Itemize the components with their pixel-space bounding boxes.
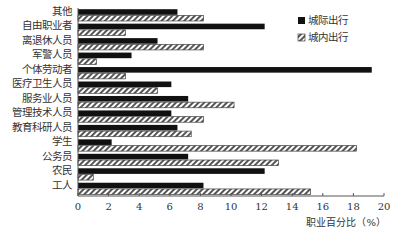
x-tick-label: 12 bbox=[255, 201, 268, 212]
intercity-bar bbox=[78, 82, 171, 88]
intracity-bar bbox=[78, 88, 158, 94]
intracity-bar bbox=[78, 102, 234, 108]
intercity-bar bbox=[78, 96, 188, 102]
intracity-bar bbox=[78, 44, 203, 50]
legend: 城际出行城内出行 bbox=[298, 14, 349, 43]
y-axis: 其他自由职业者离退休人员军警人员个体劳动者医疗卫生人员服务业人员管理技术人员教育… bbox=[12, 5, 78, 196]
x-tick-label: 16 bbox=[316, 201, 329, 212]
category-label: 服务业人员 bbox=[22, 92, 72, 104]
intercity-bar bbox=[78, 183, 203, 189]
intracity-bar bbox=[78, 131, 191, 137]
x-tick-label: 8 bbox=[197, 201, 203, 212]
intercity-bar bbox=[78, 125, 177, 131]
intercity-bar bbox=[78, 168, 265, 174]
x-axis-title: 职业百分比（%） bbox=[306, 217, 386, 228]
legend-label-intracity: 城内出行 bbox=[308, 31, 349, 43]
category-label: 学生 bbox=[52, 135, 72, 147]
intercity-bar bbox=[78, 38, 158, 44]
x-tick-label: 2 bbox=[105, 201, 111, 212]
category-label: 医疗卫生人员 bbox=[12, 77, 72, 89]
intercity-bar bbox=[78, 110, 171, 116]
category-label: 工人 bbox=[52, 179, 73, 191]
x-axis: 02468101214161820 bbox=[75, 193, 391, 212]
category-label: 个体劳动者 bbox=[22, 63, 72, 75]
category-label: 公务员 bbox=[42, 150, 72, 162]
intercity-bar bbox=[78, 139, 112, 145]
x-tick-label: 20 bbox=[378, 201, 391, 212]
intracity-bar bbox=[78, 59, 96, 65]
x-tick-label: 4 bbox=[136, 201, 142, 212]
intracity-bar bbox=[78, 73, 125, 79]
x-tick-label: 18 bbox=[347, 201, 360, 212]
intracity-bar bbox=[78, 117, 203, 123]
intracity-bar bbox=[78, 160, 278, 166]
category-label: 其他 bbox=[52, 5, 73, 17]
intracity-bar bbox=[78, 189, 311, 195]
x-tick-label: 10 bbox=[225, 201, 238, 212]
category-label: 自由职业者 bbox=[22, 19, 72, 31]
intercity-bar bbox=[78, 53, 132, 59]
legend-swatch-intracity bbox=[298, 34, 305, 41]
intercity-bar bbox=[78, 67, 372, 73]
intercity-bar bbox=[78, 24, 265, 30]
bar-chart: 其他自由职业者离退休人员军警人员个体劳动者医疗卫生人员服务业人员管理技术人员教育… bbox=[0, 0, 394, 236]
x-tick-label: 0 bbox=[75, 201, 81, 212]
intracity-bar bbox=[78, 15, 203, 21]
legend-swatch-intercity bbox=[298, 17, 305, 24]
legend-label-intercity: 城际出行 bbox=[308, 14, 349, 26]
category-label: 农民 bbox=[52, 164, 72, 176]
intracity-bar bbox=[78, 30, 125, 36]
category-label: 军警人员 bbox=[32, 48, 72, 60]
intercity-bar bbox=[78, 9, 177, 15]
category-label: 教育科研人员 bbox=[12, 121, 72, 133]
intracity-bar bbox=[78, 174, 93, 180]
x-tick-label: 14 bbox=[286, 201, 299, 212]
intracity-bar bbox=[78, 146, 356, 152]
category-label: 管理技术人员 bbox=[12, 106, 72, 118]
category-label: 离退休人员 bbox=[22, 34, 72, 46]
x-tick-label: 6 bbox=[167, 201, 173, 212]
intercity-bar bbox=[78, 154, 188, 160]
